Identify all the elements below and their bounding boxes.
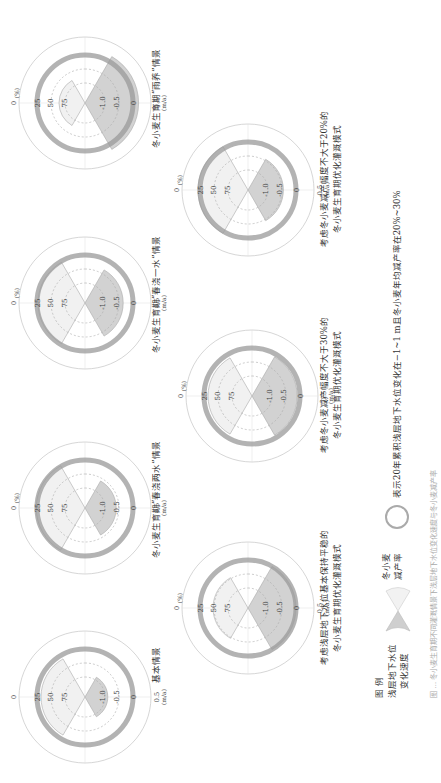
gauge-title-yield-loss-30: 考虑冬小麦减产幅度不大于30%的 冬小麦生育期优化灌溉模式 (318, 317, 344, 453)
gauge-svg: 2550750-0.5-1.00(%)0.5(m/a) (182, 326, 322, 466)
legend-ring-desc: 表示20年累积浅层地下水位变化在−1~1 m且冬小麦年均减产率在20%~30% (390, 190, 402, 498)
svg-text:50: 50 (47, 504, 55, 513)
svg-text:25: 25 (197, 604, 205, 613)
svg-text:0: 0 (173, 188, 181, 192)
svg-text:75: 75 (61, 693, 69, 702)
title-line-1: 考虑浅层地下水位基本保持平稳的 (318, 530, 331, 665)
gauge-svg: 2550750-0.5-1.00(%)0.5(m/a) (178, 120, 318, 260)
svg-text:0: 0 (10, 101, 18, 105)
gauge-title-rainfed: 冬小麦生育期“雨养”情景 (150, 49, 163, 148)
svg-text:25: 25 (34, 693, 42, 702)
svg-text:0: 0 (177, 394, 185, 398)
svg-text:-1.0: -1.0 (99, 690, 107, 704)
svg-text:50: 50 (47, 99, 55, 108)
legend-gw-line-1: 浅层地下水位 (386, 644, 398, 698)
svg-text:50: 50 (210, 186, 218, 195)
svg-text:-0.5: -0.5 (113, 690, 121, 704)
gauge-yield-loss-30: 2550750-0.5-1.00(%)0.5(m/a) (182, 326, 322, 466)
svg-text:0: 0 (130, 301, 138, 305)
svg-text:(%): (%) (13, 493, 20, 503)
svg-text:-0.5: -0.5 (113, 501, 121, 515)
legend-yield-line-1: 冬小麦 (380, 553, 392, 580)
gauge-svg: 2550750-0.5-1.00(%)0.5(m/a) (15, 33, 155, 173)
gauge-svg: 2550750-0.5-1.00(%)0.5(m/a) (15, 438, 155, 578)
title-line-2: 冬小麦生育期优化灌溉模式 (331, 530, 344, 665)
svg-text:(%): (%) (13, 288, 20, 298)
svg-text:-0.5: -0.5 (113, 296, 121, 310)
svg-text:0: 0 (297, 394, 305, 398)
svg-text:-0.5: -0.5 (276, 183, 284, 197)
svg-text:25: 25 (34, 299, 42, 308)
svg-text:-1.0: -1.0 (266, 389, 274, 403)
gauge-title-stable-groundwater: 考虑浅层地下水位基本保持平稳的 冬小麦生育期优化灌溉模式 (318, 530, 344, 665)
svg-text:75: 75 (61, 299, 69, 308)
svg-text:0: 0 (293, 188, 301, 192)
gauge-title-spring-one: 冬小麦生育期“春浇一水”情景 (150, 236, 163, 353)
svg-text:0: 0 (10, 506, 18, 510)
svg-text:75: 75 (224, 186, 232, 195)
svg-text:0: 0 (173, 606, 181, 610)
svg-text:0: 0 (10, 695, 18, 699)
legend: 图 例 浅层地下水位 变化速度 冬小麦 减产率 表示20年累积浅层地下水位变化在… (372, 98, 422, 698)
svg-text:-1.0: -1.0 (99, 501, 107, 515)
svg-text:-0.5: -0.5 (276, 601, 284, 615)
svg-text:25: 25 (201, 392, 209, 401)
gauge-rainfed: 2550750-0.5-1.00(%)0.5(m/a) (15, 33, 155, 173)
svg-text:-1.0: -1.0 (99, 296, 107, 310)
svg-text:(%): (%) (180, 381, 187, 391)
svg-text:50: 50 (214, 392, 222, 401)
gauge-svg: 2550750-0.5-1.00(%)0.5(m/a) (178, 538, 318, 678)
figure-caption: 图 … 冬小麦生育期不同灌溉情景下浅层地下水位变化速度与冬小麦减产率 (428, 470, 438, 698)
rotated-figure-page: 2550750-0.5-1.000.5(m/a) 基本情景 2550750-0.… (0, 0, 441, 783)
svg-text:-1.0: -1.0 (262, 601, 270, 615)
title-line-2: 冬小麦生育期优化灌溉模式 (331, 317, 344, 453)
svg-text:25: 25 (34, 99, 42, 108)
svg-text:50: 50 (47, 299, 55, 308)
gauge-stable-groundwater: 2550750-0.5-1.00(%)0.5(m/a) (178, 538, 318, 678)
gauge-svg: 2550750-0.5-1.00(%)0.5(m/a) (15, 233, 155, 373)
svg-text:(m/a): (m/a) (160, 689, 167, 705)
svg-text:75: 75 (224, 604, 232, 613)
legend-gw-label: 浅层地下水位 变化速度 (386, 644, 410, 698)
gauge-basic: 2550750-0.5-1.000.5(m/a) (15, 627, 155, 767)
title-line-1: 考虑冬小麦减产幅度不大于30%的 (318, 317, 331, 453)
legend-gw-line-2: 变化速度 (398, 644, 410, 698)
title-line-1: 考虑冬小麦减产幅度不大于20%的 (318, 111, 331, 247)
svg-text:75: 75 (61, 504, 69, 513)
legend-ring-icon (384, 504, 410, 530)
svg-text:25: 25 (197, 186, 205, 195)
svg-text:0: 0 (130, 506, 138, 510)
svg-text:-0.5: -0.5 (280, 389, 288, 403)
svg-text:0: 0 (130, 695, 138, 699)
gauge-yield-loss-20: 2550750-0.5-1.00(%)0.5(m/a) (178, 120, 318, 260)
svg-text:0: 0 (130, 101, 138, 105)
svg-text:0: 0 (293, 606, 301, 610)
svg-text:50: 50 (210, 604, 218, 613)
svg-text:75: 75 (228, 392, 236, 401)
legend-yield-label: 冬小麦 减产率 (380, 553, 404, 580)
svg-text:(%): (%) (176, 175, 183, 185)
svg-text:-1.0: -1.0 (99, 96, 107, 110)
gauge-svg: 2550750-0.5-1.000.5(m/a) (15, 627, 155, 767)
svg-text:(%): (%) (176, 593, 183, 603)
svg-text:-1.0: -1.0 (262, 183, 270, 197)
svg-text:25: 25 (34, 504, 42, 513)
gauge-title-yield-loss-20: 考虑冬小麦减产幅度不大于20%的 冬小麦生育期优化灌溉模式 (318, 111, 344, 247)
legend-title: 图 例 (372, 677, 384, 698)
svg-text:50: 50 (47, 693, 55, 702)
svg-text:75: 75 (61, 99, 69, 108)
title-line-2: 冬小麦生育期优化灌溉模式 (331, 111, 344, 247)
svg-text:0: 0 (10, 301, 18, 305)
gauge-spring-one-irrigation: 2550750-0.5-1.00(%)0.5(m/a) (15, 233, 155, 373)
gauge-title-spring-two: 冬小麦生育期“春浇两水”情景 (150, 441, 163, 558)
svg-text:-0.5: -0.5 (113, 96, 121, 110)
svg-text:(%): (%) (13, 88, 20, 98)
gauge-title-basic: 基本情景 (150, 647, 163, 683)
legend-yield-line-2: 减产率 (392, 553, 404, 580)
legend-sector-icon (374, 586, 422, 636)
gauge-spring-two-irrigations: 2550750-0.5-1.00(%)0.5(m/a) (15, 438, 155, 578)
